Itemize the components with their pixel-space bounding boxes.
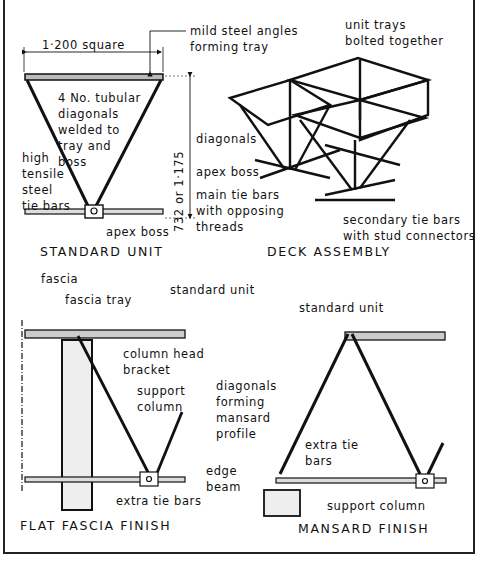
secondary-tie-bars-label: secondary tie bars with stud connectors <box>343 212 475 244</box>
support-column-label-mansard: support column <box>327 498 426 514</box>
edge-beam-label: edge beam <box>206 463 241 495</box>
fascia-tray-label: fascia tray <box>65 292 132 308</box>
fascia-label: fascia <box>41 271 78 287</box>
tie-bars-label: high tensile steel tie bars <box>22 150 70 214</box>
dimension-width-label: 1·200 square <box>42 37 125 53</box>
extra-tie-bars-label-flat: extra tie bars <box>116 493 202 509</box>
mansard-drawing <box>264 332 446 516</box>
deck-apex-boss-label: apex boss <box>196 164 259 180</box>
apex-boss-label: apex boss <box>106 224 169 240</box>
standard-unit-label-flat: standard unit <box>170 282 255 298</box>
standard-unit-label-mansard: standard unit <box>299 300 384 316</box>
caption-deck-assembly: DECK ASSEMBLY <box>267 244 391 259</box>
dimension-height-label: 732 or 1·175 <box>172 151 186 232</box>
mild-steel-label: mild steel angles forming tray <box>190 23 298 55</box>
main-tie-bars-label: main tie bars with opposing threads <box>196 187 284 235</box>
support-column-label-flat: support column <box>137 383 185 415</box>
tubular-diagonals-label: 4 No. tubular diagonals welded to tray a… <box>58 90 141 170</box>
column-head-bracket-label: column head bracket <box>123 346 204 378</box>
caption-flat-fascia-finish: FLAT FASCIA FINISH <box>20 518 171 533</box>
deck-assembly-drawing <box>230 58 428 200</box>
unit-trays-label: unit trays bolted together <box>345 17 444 49</box>
deck-diagonals-label: diagonals <box>196 131 257 147</box>
extra-tie-bars-label-mansard: extra tie bars <box>305 437 359 469</box>
mansard-diagonals-label: diagonals forming mansard profile <box>216 378 277 442</box>
caption-mansard-finish: MANSARD FINISH <box>298 521 429 536</box>
caption-standard-unit: STANDARD UNIT <box>40 244 163 259</box>
